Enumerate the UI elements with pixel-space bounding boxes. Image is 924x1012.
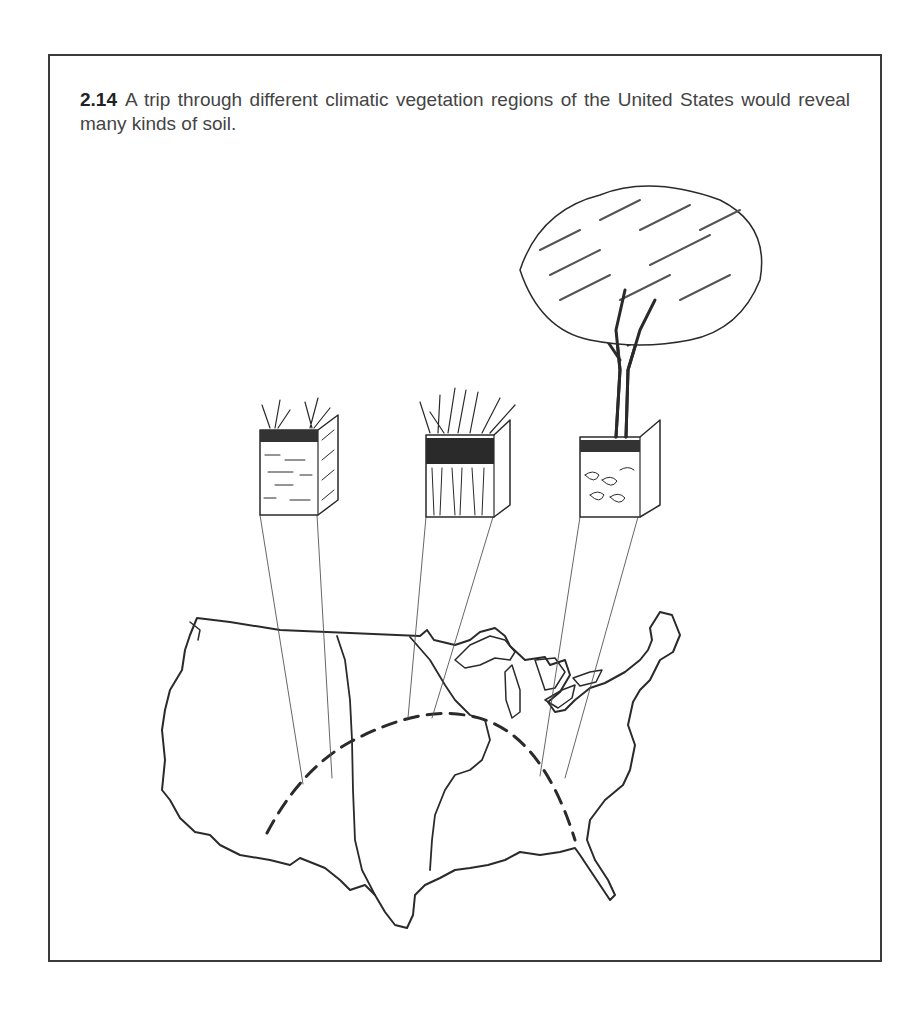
route-dashed-arc xyxy=(267,713,575,840)
great-lakes xyxy=(455,636,602,718)
us-map-outline xyxy=(162,612,680,928)
projection-lines xyxy=(260,515,638,784)
tree xyxy=(520,186,762,437)
desert-soil-profile xyxy=(260,398,338,515)
forest-soil-profile xyxy=(580,420,660,517)
grassland-soil-profile xyxy=(420,388,515,517)
region-boundaries xyxy=(337,636,490,895)
illustration xyxy=(0,0,924,1012)
